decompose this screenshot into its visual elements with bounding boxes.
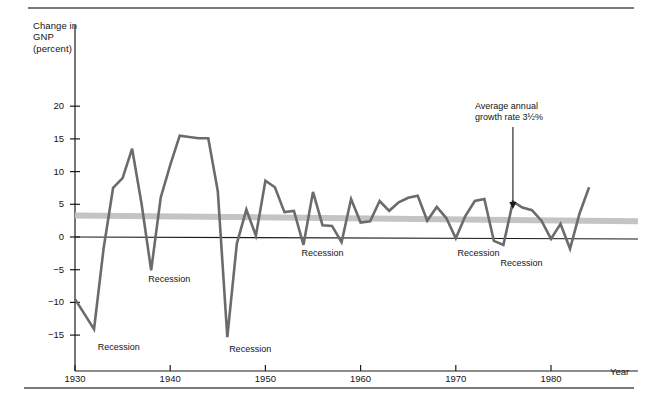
recession-label: Recession bbox=[458, 248, 500, 258]
y-tick-label: −15 bbox=[34, 329, 64, 340]
y-tick-label: 15 bbox=[34, 133, 64, 144]
recession-label: Recession bbox=[148, 274, 190, 284]
x-tick-marks bbox=[75, 365, 551, 371]
x-tick-label: 1980 bbox=[531, 373, 571, 384]
x-tick-label: 1930 bbox=[55, 373, 95, 384]
y-tick-label: −10 bbox=[34, 296, 64, 307]
annotation-pointer-arrow bbox=[509, 127, 516, 209]
recession-label: Recession bbox=[500, 258, 542, 268]
x-tick-label: 1940 bbox=[150, 373, 190, 384]
x-tick-label: 1960 bbox=[341, 373, 381, 384]
gnp-series-line bbox=[75, 136, 589, 337]
recession-label: Recession bbox=[98, 342, 140, 352]
y-tick-label: 0 bbox=[34, 231, 64, 242]
growth-rate-annotation: Average annual growth rate 3½% bbox=[475, 101, 543, 123]
x-tick-label: 1950 bbox=[245, 373, 285, 384]
y-tick-label: −5 bbox=[34, 264, 64, 275]
recession-label: Recession bbox=[229, 344, 271, 354]
y-tick-label: 10 bbox=[34, 166, 64, 177]
y-tick-label: 5 bbox=[34, 198, 64, 209]
gnp-change-chart-figure: Change in GNP (percent) Year 20151050−5−… bbox=[0, 0, 646, 405]
y-tick-label: 20 bbox=[34, 100, 64, 111]
x-tick-label: 1970 bbox=[436, 373, 476, 384]
recession-label: Recession bbox=[301, 248, 343, 258]
